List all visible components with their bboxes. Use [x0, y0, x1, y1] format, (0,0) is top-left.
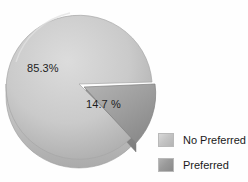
slice-label-no-preferred: 85.3%	[27, 62, 59, 74]
pie-graphic: 85.3% 14.7 %	[0, 0, 160, 182]
legend-item-preferred[interactable]: Preferred	[158, 154, 248, 176]
legend-item-no-preferred[interactable]: No Preferred	[158, 129, 248, 151]
legend: No Preferred Preferred	[158, 129, 248, 179]
slice-label-preferred: 14.7 %	[86, 98, 121, 110]
legend-label-preferred: Preferred	[183, 159, 229, 171]
legend-swatch-preferred-icon	[158, 158, 174, 172]
pie-svg	[0, 0, 160, 182]
legend-label-no-preferred: No Preferred	[183, 134, 246, 146]
pie-chart: 85.3% 14.7 % No Preferred Preferred	[0, 0, 248, 182]
legend-swatch-no-preferred-icon	[158, 133, 174, 147]
